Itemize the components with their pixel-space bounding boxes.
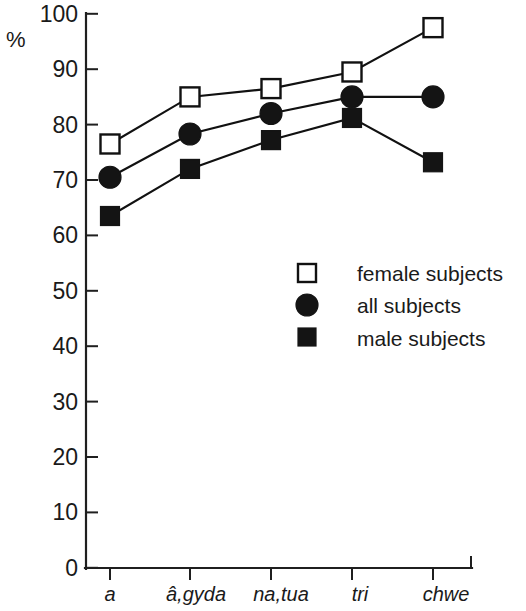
legend-marker-filled-circle-icon (296, 294, 318, 316)
series-layer (99, 18, 444, 225)
data-point-filled-square-icon (262, 131, 281, 150)
y-tick-label: 70 (52, 167, 78, 193)
y-tick-label: 50 (52, 278, 78, 304)
data-point-filled-square-icon (101, 207, 120, 226)
chart-canvas: % 100 90 80 70 60 50 40 30 20 10 0 a â,g… (0, 0, 526, 611)
legend: female subjects all subjects male subjec… (296, 262, 503, 350)
y-tick-label: 100 (40, 1, 78, 27)
x-tick-label: chwe (423, 583, 470, 605)
x-axis-tick-labels: a â,gyda na,tua tri chwe (104, 583, 469, 605)
data-point-filled-circle-icon (179, 123, 201, 145)
data-point-open-square-icon (101, 134, 120, 153)
y-tick-label: 30 (52, 389, 78, 415)
data-point-filled-circle-icon (260, 103, 282, 125)
legend-marker-open-square-icon (298, 264, 316, 282)
y-tick-label: 90 (52, 56, 78, 82)
y-tick-label: 20 (52, 444, 78, 470)
x-tick-label: a (104, 583, 115, 605)
x-axis-ticks (110, 568, 433, 580)
data-point-filled-square-icon (424, 153, 443, 172)
data-point-open-square-icon (262, 79, 281, 98)
y-tick-label: 80 (52, 112, 78, 138)
y-axis-unit-label: % (6, 27, 26, 52)
y-tick-label: 0 (65, 555, 78, 581)
x-tick-label: tri (352, 583, 369, 605)
data-point-filled-circle-icon (99, 166, 121, 188)
y-tick-label: 10 (52, 499, 78, 525)
data-point-filled-circle-icon (341, 86, 363, 108)
x-tick-label: na,tua (253, 583, 309, 605)
data-point-open-square-icon (343, 62, 362, 81)
data-point-filled-circle-icon (422, 86, 444, 108)
chart-figure: % 100 90 80 70 60 50 40 30 20 10 0 a â,g… (0, 0, 526, 611)
y-tick-label: 40 (52, 333, 78, 359)
x-tick-label: â,gyda (166, 583, 226, 605)
y-axis-ticks (86, 14, 98, 568)
legend-label-male-subjects: male subjects (357, 327, 485, 350)
series-male-subjects (101, 108, 443, 225)
data-point-open-square-icon (181, 87, 200, 106)
legend-label-female-subjects: female subjects (357, 262, 503, 285)
data-point-filled-square-icon (343, 108, 362, 127)
legend-label-all-subjects: all subjects (357, 294, 461, 317)
legend-marker-filled-square-icon (298, 328, 316, 346)
data-point-open-square-icon (424, 18, 443, 37)
y-tick-label: 60 (52, 222, 78, 248)
data-point-filled-square-icon (181, 159, 200, 178)
y-axis-tick-labels: 100 90 80 70 60 50 40 30 20 10 0 (40, 1, 78, 581)
